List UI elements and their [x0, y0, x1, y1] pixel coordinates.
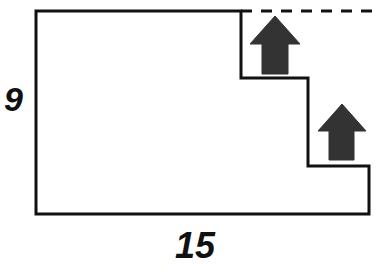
height-dimension-label: 9 [4, 82, 22, 116]
geometry-figure: 9 15 [0, 0, 376, 276]
width-dimension-label: 15 [175, 228, 215, 264]
